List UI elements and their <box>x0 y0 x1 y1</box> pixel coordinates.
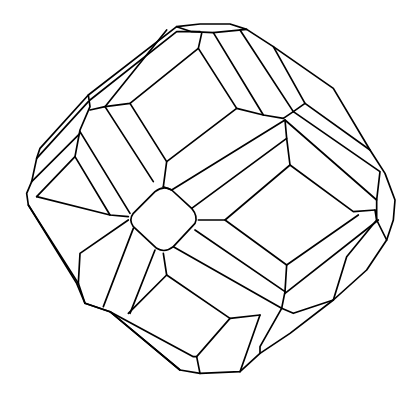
crystal-drawing <box>0 0 416 397</box>
diagram-canvas: Polyhedron crystal line drawing <box>0 0 416 397</box>
outline <box>27 24 395 373</box>
